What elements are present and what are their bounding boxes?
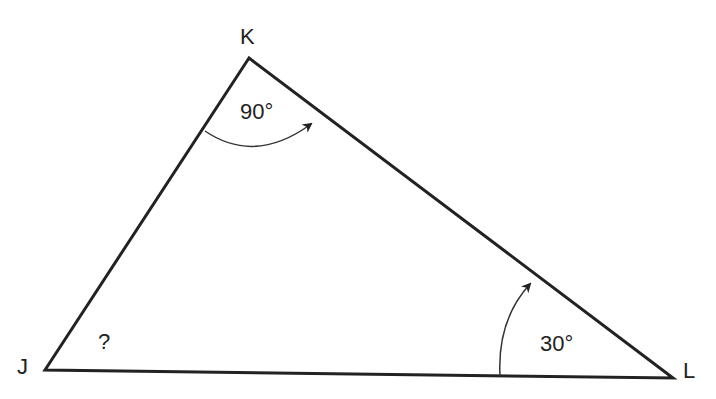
angle-l-arc-arrow xyxy=(500,284,530,376)
angle-l-label: 30° xyxy=(540,331,573,357)
vertex-label-k: K xyxy=(240,24,255,50)
angle-k-arc-arrow xyxy=(205,124,311,146)
vertex-label-j: J xyxy=(17,354,28,380)
angle-j-label: ? xyxy=(98,329,110,355)
triangle-jkl xyxy=(45,58,673,378)
angle-k-label: 90° xyxy=(240,99,273,125)
vertex-label-l: L xyxy=(683,358,695,384)
